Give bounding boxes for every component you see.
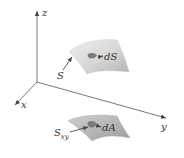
surface-integral-diagram: z x y dS S dA Sxy [0,0,184,158]
y-axis-label: y [160,121,167,132]
projection-sxy [68,115,130,141]
z-axis-label: z [41,7,48,18]
da-label: dA [102,122,116,133]
projection-sxy-label: Sxy [54,127,70,141]
x-axis-label: x [21,99,27,110]
y-axis [37,82,166,118]
ds-label: dS [104,51,117,62]
s-pointer-arrow [63,57,72,70]
sxy-subscript: xy [61,133,70,141]
surface-s-label: S [57,70,64,81]
